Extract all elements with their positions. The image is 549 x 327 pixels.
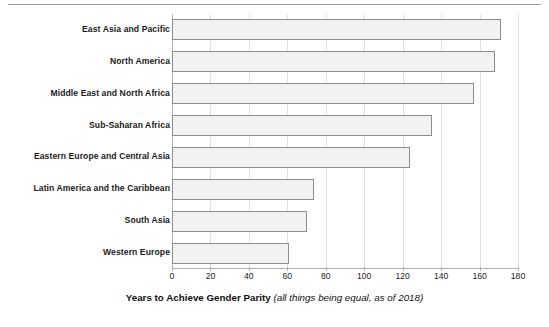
category-label: South Asia xyxy=(0,216,170,225)
x-tick-label: 0 xyxy=(170,272,175,281)
category-label: Sub-Saharan Africa xyxy=(0,121,170,130)
bar[interactable] xyxy=(172,83,474,104)
x-tick-mark xyxy=(326,267,327,271)
x-axis-title: Years to Achieve Gender Parity (all thin… xyxy=(0,293,549,304)
gridline xyxy=(518,14,519,269)
bar[interactable] xyxy=(172,19,501,40)
bar-row xyxy=(172,115,518,136)
x-tick-mark xyxy=(172,267,173,271)
x-tick-label: 20 xyxy=(206,272,216,281)
bar-row xyxy=(172,19,518,40)
plot-area xyxy=(172,14,518,269)
x-tick-label: 140 xyxy=(434,272,448,281)
bar-row xyxy=(172,243,518,264)
top-divider xyxy=(8,4,541,5)
x-tick-mark xyxy=(480,267,481,271)
x-axis-line xyxy=(172,268,518,269)
bar[interactable] xyxy=(172,179,314,200)
x-tick-label: 100 xyxy=(357,272,371,281)
x-tick-label: 160 xyxy=(472,272,486,281)
bar[interactable] xyxy=(172,51,495,72)
x-tick-mark xyxy=(441,267,442,271)
x-tick-label: 60 xyxy=(283,272,293,281)
bar[interactable] xyxy=(172,115,432,136)
x-tick-label: 80 xyxy=(321,272,331,281)
bar-row xyxy=(172,147,518,168)
bar-row xyxy=(172,179,518,200)
bar[interactable] xyxy=(172,243,289,264)
x-tick-label: 40 xyxy=(244,272,254,281)
category-label: Eastern Europe and Central Asia xyxy=(0,152,170,161)
x-tick-mark xyxy=(364,267,365,271)
x-tick-mark xyxy=(210,267,211,271)
category-label: Latin America and the Caribbean xyxy=(0,184,170,193)
category-label: East Asia and Pacific xyxy=(0,25,170,34)
bar-row xyxy=(172,83,518,104)
x-tick-mark xyxy=(403,267,404,271)
category-label: North America xyxy=(0,57,170,66)
x-tick-label: 120 xyxy=(395,272,409,281)
chart-figure: East Asia and PacificNorth AmericaMiddle… xyxy=(0,0,549,327)
x-axis-title-note: (all things being equal, as of 2018) xyxy=(273,292,423,303)
x-axis-title-main: Years to Achieve Gender Parity xyxy=(126,292,271,303)
category-label: Western Europe xyxy=(0,248,170,257)
x-tick-label: 180 xyxy=(511,272,525,281)
bar-row xyxy=(172,51,518,72)
x-axis-tick-labels: 020406080100120140160180 xyxy=(172,272,518,284)
category-axis-labels: East Asia and PacificNorth AmericaMiddle… xyxy=(0,14,170,269)
x-tick-mark xyxy=(287,267,288,271)
bar[interactable] xyxy=(172,147,410,168)
bar-row xyxy=(172,211,518,232)
x-tick-mark xyxy=(249,267,250,271)
bar[interactable] xyxy=(172,211,307,232)
category-label: Middle East and North Africa xyxy=(0,89,170,98)
x-tick-mark xyxy=(518,267,519,271)
